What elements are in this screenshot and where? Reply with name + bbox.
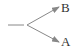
node-label-b: B — [61, 1, 70, 14]
arrow-to-b — [27, 7, 59, 25]
arrow-to-a — [27, 25, 59, 42]
node-label-a: A — [61, 35, 70, 48]
